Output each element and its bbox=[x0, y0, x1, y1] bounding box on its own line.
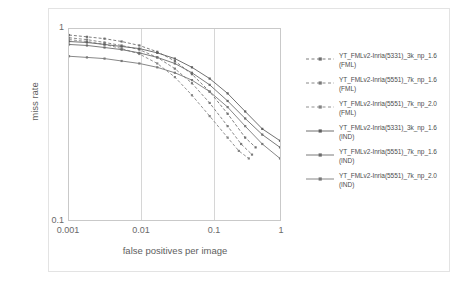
series-marker-3 bbox=[191, 66, 193, 68]
series-marker-3 bbox=[69, 40, 70, 42]
series-marker-3 bbox=[227, 92, 229, 94]
series-marker-3 bbox=[261, 128, 263, 130]
series-marker-0 bbox=[121, 40, 123, 42]
series-marker-4 bbox=[174, 62, 176, 64]
series-marker-2 bbox=[174, 76, 176, 78]
series-marker-3 bbox=[103, 43, 105, 45]
series-marker-1 bbox=[227, 125, 229, 127]
series-marker-0 bbox=[244, 137, 246, 139]
x-tick-label-0.01: 0.01 bbox=[121, 225, 161, 235]
series-marker-5 bbox=[174, 72, 176, 74]
legend-key-icon bbox=[306, 172, 334, 186]
legend-item[interactable]: YT_FMLv2-Inria(5331)_3k_np_1.6(IND) bbox=[306, 124, 450, 141]
series-marker-2 bbox=[238, 150, 240, 152]
series-marker-4 bbox=[69, 43, 70, 45]
series-marker-5 bbox=[156, 66, 158, 68]
series-marker-1 bbox=[209, 102, 211, 104]
series-marker-0 bbox=[69, 34, 70, 36]
series-marker-4 bbox=[156, 56, 158, 58]
legend-label: YT_FMLv2-Inria(5331)_3k_np_1.6(IND) bbox=[339, 124, 437, 141]
series-marker-3 bbox=[86, 41, 88, 43]
series-plot bbox=[69, 29, 280, 220]
series-marker-4 bbox=[244, 117, 246, 119]
series-marker-0 bbox=[138, 44, 140, 46]
series-marker-5 bbox=[69, 55, 70, 57]
legend: YT_FMLv2-Inria(5331)_3k_np_1.6(FML)YT_FM… bbox=[306, 52, 450, 196]
legend-key-icon bbox=[306, 100, 334, 114]
legend-key-icon bbox=[306, 124, 334, 138]
series-marker-1 bbox=[174, 68, 176, 70]
series-marker-3 bbox=[209, 78, 211, 80]
series-marker-5 bbox=[279, 157, 280, 159]
series-marker-1 bbox=[86, 39, 88, 41]
series-marker-4 bbox=[191, 72, 193, 74]
series-marker-5 bbox=[191, 79, 193, 81]
series-marker-2 bbox=[209, 115, 211, 117]
y-tick-label-0.1: 0.1 bbox=[42, 215, 64, 225]
legend-item[interactable]: YT_FMLv2-Inria(5551)_7k_np_1.6(IND) bbox=[306, 148, 450, 165]
series-marker-4 bbox=[121, 49, 123, 51]
series-marker-3 bbox=[174, 58, 176, 60]
legend-label: YT_FMLv2-Inria(5551)_7k_np_1.6(IND) bbox=[339, 148, 437, 165]
series-marker-4 bbox=[138, 52, 140, 54]
series-marker-5 bbox=[138, 62, 140, 64]
series-marker-5 bbox=[227, 106, 229, 108]
series-marker-5 bbox=[103, 58, 105, 60]
series-marker-4 bbox=[279, 146, 280, 148]
series-line-4 bbox=[69, 44, 280, 147]
series-marker-5 bbox=[86, 56, 88, 58]
series-marker-4 bbox=[227, 100, 229, 102]
legend-key-icon bbox=[306, 148, 334, 162]
series-marker-1 bbox=[191, 82, 193, 84]
series-line-1 bbox=[69, 38, 252, 155]
series-marker-5 bbox=[261, 143, 263, 145]
series-marker-1 bbox=[251, 154, 253, 156]
series-line-5 bbox=[69, 56, 280, 158]
series-marker-0 bbox=[86, 36, 88, 38]
y-tick-label-1: 1 bbox=[42, 22, 64, 32]
legend-key-icon bbox=[306, 52, 334, 66]
series-marker-2 bbox=[227, 137, 229, 139]
series-marker-1 bbox=[103, 41, 105, 43]
chart-figure: miss rate 1 0.1 0.001 0.01 0.1 1 false p… bbox=[0, 0, 466, 285]
series-marker-4 bbox=[86, 44, 88, 46]
series-marker-5 bbox=[209, 91, 211, 93]
x-tick-label-0.1: 0.1 bbox=[194, 225, 234, 235]
series-marker-1 bbox=[69, 37, 70, 39]
legend-label: YT_FMLv2-Inria(5551)_7k_np_2.0(FML) bbox=[339, 100, 437, 117]
series-marker-0 bbox=[227, 113, 229, 115]
y-axis-title: miss rate bbox=[29, 67, 40, 137]
series-marker-3 bbox=[244, 110, 246, 112]
legend-label: YT_FMLv2-Inria(5551)_7k_np_2.0(IND) bbox=[339, 172, 437, 189]
series-marker-1 bbox=[240, 143, 242, 145]
series-marker-5 bbox=[244, 125, 246, 127]
series-marker-0 bbox=[103, 38, 105, 40]
plot-area bbox=[68, 28, 281, 221]
series-marker-4 bbox=[209, 84, 211, 86]
series-marker-3 bbox=[156, 52, 158, 54]
legend-item[interactable]: YT_FMLv2-Inria(5551)_7k_np_2.0(FML) bbox=[306, 100, 450, 117]
series-marker-4 bbox=[261, 134, 263, 136]
legend-item[interactable]: YT_FMLv2-Inria(5551)_7k_np_1.6(FML) bbox=[306, 76, 450, 93]
legend-key-icon bbox=[306, 76, 334, 90]
legend-item[interactable]: YT_FMLv2-Inria(5331)_3k_np_1.6(FML) bbox=[306, 52, 450, 69]
series-marker-0 bbox=[174, 60, 176, 62]
series-marker-5 bbox=[121, 60, 123, 62]
series-marker-3 bbox=[138, 47, 140, 49]
legend-label: YT_FMLv2-Inria(5331)_3k_np_1.6(FML) bbox=[339, 52, 437, 69]
series-marker-2 bbox=[69, 39, 70, 41]
series-line-2 bbox=[69, 40, 249, 159]
series-marker-3 bbox=[121, 45, 123, 47]
x-tick-label-0.001: 0.001 bbox=[48, 225, 88, 235]
legend-label: YT_FMLv2-Inria(5551)_7k_np_1.6(FML) bbox=[339, 76, 437, 93]
series-line-0 bbox=[69, 35, 256, 147]
series-marker-2 bbox=[156, 62, 158, 64]
series-marker-0 bbox=[255, 146, 257, 148]
legend-item[interactable]: YT_FMLv2-Inria(5551)_7k_np_2.0(IND) bbox=[306, 172, 450, 189]
series-marker-2 bbox=[248, 157, 250, 159]
series-marker-2 bbox=[191, 94, 193, 96]
x-axis-title: false positives per image bbox=[95, 245, 255, 256]
series-line-3 bbox=[69, 42, 280, 141]
series-marker-3 bbox=[279, 140, 280, 142]
x-tick-label-1: 1 bbox=[261, 225, 301, 235]
